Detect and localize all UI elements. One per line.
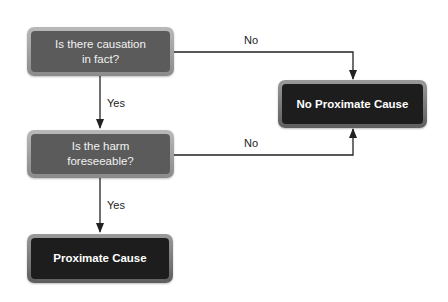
outcome-node-proximate-cause: Proximate Cause bbox=[27, 234, 173, 283]
decision-node-causation: Is there causation in fact? bbox=[27, 27, 174, 76]
edge-label-no: No bbox=[244, 34, 258, 46]
edge-label-yes: Yes bbox=[107, 97, 125, 109]
node-text-line: Is the harm bbox=[67, 139, 134, 154]
outcome-node-no-proximate-cause: No Proximate Cause bbox=[278, 80, 427, 128]
edge-label-no: No bbox=[244, 137, 258, 149]
node-text: Proximate Cause bbox=[31, 238, 169, 279]
edge-q2-no-cause bbox=[174, 129, 353, 155]
node-text-line: Is there causation bbox=[55, 37, 146, 52]
decision-node-foreseeable: Is the harm foreseeable? bbox=[27, 130, 174, 178]
edge-q1-no-cause bbox=[174, 52, 353, 79]
node-text-line: foreseeable? bbox=[67, 154, 134, 169]
node-text: No Proximate Cause bbox=[282, 84, 423, 124]
edge-label-yes: Yes bbox=[107, 199, 125, 211]
node-text-line: in fact? bbox=[55, 52, 146, 67]
